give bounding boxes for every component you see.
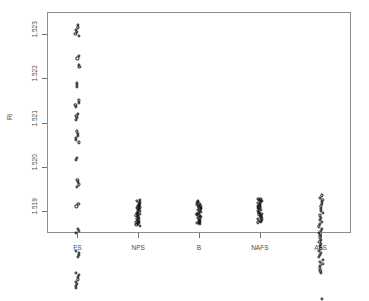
y-tick-mark xyxy=(42,34,47,35)
data-point xyxy=(321,298,324,301)
y-axis-title: Ri xyxy=(6,113,13,120)
data-point xyxy=(319,271,322,274)
data-point xyxy=(74,287,77,290)
x-tick-mark xyxy=(260,233,261,238)
y-axis: Ri 1.5191.5201.5211.5221.523 xyxy=(0,0,47,266)
x-tick-label-nps: NPS xyxy=(132,244,145,251)
y-tick-label: 1.522 xyxy=(35,74,42,90)
y-tick-label: 1.521 xyxy=(35,118,42,134)
y-tick-label: 1.519 xyxy=(35,206,42,222)
x-tick-mark xyxy=(138,233,139,238)
y-tick-mark xyxy=(42,78,47,79)
y-tick-mark xyxy=(42,123,47,124)
x-tick-mark xyxy=(77,233,78,238)
y-tick-mark xyxy=(42,167,47,168)
y-tick-label: 1.523 xyxy=(35,29,42,45)
x-tick-mark xyxy=(199,233,200,238)
y-tick-mark xyxy=(42,211,47,212)
x-tick-label-nafs: NAFS xyxy=(251,244,268,251)
y-tick-label: 1.520 xyxy=(35,162,42,178)
x-tick-label-b: B xyxy=(197,244,201,251)
x-axis: FSNPSBNAFSAFS xyxy=(0,233,369,266)
